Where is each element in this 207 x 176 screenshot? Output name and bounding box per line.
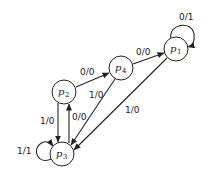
transition-p2-p4: 0/0: [76, 67, 109, 87]
state-p3: p 3: [50, 142, 74, 166]
edge-label: 1/1: [17, 146, 31, 156]
edge-label: 0/0: [80, 67, 95, 77]
state-name: p: [58, 86, 65, 97]
edge-label: 1/0: [125, 105, 140, 115]
edge-label: 1/0: [40, 116, 55, 126]
transition-p4-p1: 0/0: [133, 47, 164, 64]
state-name: p: [115, 62, 122, 73]
state-subscript: 3: [63, 153, 67, 161]
state-name: p: [170, 43, 177, 54]
state-p1: p 1: [164, 37, 188, 61]
edge-label: 0/0: [136, 47, 151, 57]
transition-p2-p3: 1/0: [40, 103, 58, 142]
edge-label: 0/1: [179, 12, 193, 22]
edge-label: 1/0: [89, 90, 104, 100]
state-subscript: 2: [65, 91, 69, 99]
state-p2: p 2: [52, 80, 76, 104]
edge-label: 0/0: [72, 112, 87, 122]
state-diagram: 0/1 0/0 0/0 1/0 1/0 1/0 0/0 1/1 p 1: [0, 0, 207, 176]
transition-p3-p2: 0/0: [69, 104, 87, 143]
state-subscript: 4: [122, 67, 127, 75]
state-subscript: 1: [177, 48, 181, 56]
state-p4: p 4: [109, 56, 133, 80]
state-name: p: [56, 148, 63, 159]
transition-p3-p3: 1/1: [17, 142, 53, 161]
